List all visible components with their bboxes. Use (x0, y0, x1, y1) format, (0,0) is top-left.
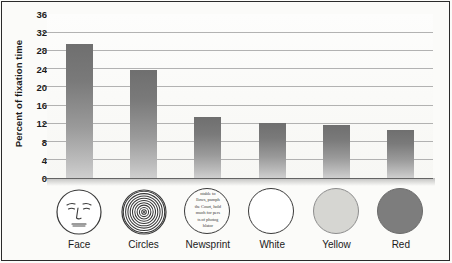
gridline (47, 159, 433, 160)
bar-red (387, 130, 414, 178)
y-tick-label: 36 (25, 9, 47, 20)
face-icon (55, 188, 103, 236)
bar-chart-figure: Percent of fixation time 048121620242832… (0, 0, 452, 263)
yellow-circle-icon (313, 188, 361, 236)
plot-bottom-shadow (47, 178, 435, 186)
bar-face (66, 44, 93, 178)
category-newsprint: ntable tollows, pamphthe Court, holdmuch… (176, 188, 240, 250)
category-face: Face (47, 188, 111, 250)
bar-circles (130, 70, 157, 178)
category-label: Newsprint (176, 239, 240, 250)
gridline (47, 141, 433, 142)
category-label: Face (47, 239, 111, 250)
y-axis: 04812162024283236 (18, 14, 47, 178)
plot-area (47, 14, 433, 178)
red-circle-icon (377, 188, 425, 236)
gridline (47, 50, 433, 51)
gridline (47, 86, 433, 87)
bar-white (259, 123, 286, 178)
gridline (47, 32, 433, 33)
concentric-circles-icon (120, 188, 168, 236)
category-label: Circles (112, 239, 176, 250)
red-circle-icon-shape (377, 188, 423, 234)
category-label: Red (369, 239, 433, 250)
newsprint-icon: ntable tollows, pamphthe Court, holdmuch… (184, 188, 232, 236)
gridline (47, 105, 433, 106)
category-yellow: Yellow (305, 188, 369, 250)
category-red: Red (369, 188, 433, 250)
category-label: Yellow (305, 239, 369, 250)
category-icon-row: FaceCirclesntable tollows, pamphthe Cour… (47, 188, 433, 258)
gridline (47, 123, 433, 124)
newsprint-swatch: ntable tollows, pamphthe Court, holdmuch… (184, 188, 230, 234)
white-circle-icon-shape (248, 188, 294, 234)
category-label: White (240, 239, 304, 250)
gridline (47, 14, 433, 15)
white-circle-icon (248, 188, 296, 236)
newsprint-text: ntable tollows, pamphthe Court, holdmuch… (184, 191, 230, 229)
category-white: White (240, 188, 304, 250)
bar-yellow (323, 125, 350, 178)
bar-newsprint (194, 117, 221, 179)
yellow-circle-icon-shape (313, 188, 359, 234)
gridline (47, 68, 433, 69)
category-circles: Circles (112, 188, 176, 250)
